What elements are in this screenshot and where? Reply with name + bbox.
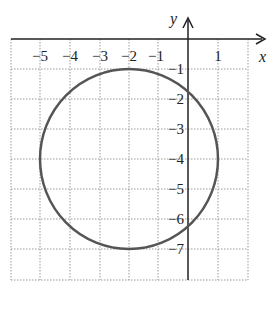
x-tick-labels: −5 −4 −3 −2 −1 1 — [32, 48, 222, 64]
grid — [11, 39, 248, 280]
svg-text:−1: −1 — [148, 48, 164, 64]
svg-text:−4: −4 — [168, 151, 184, 167]
svg-text:−2: −2 — [168, 91, 184, 107]
svg-text:−3: −3 — [168, 121, 184, 137]
x-axis — [11, 34, 265, 44]
y-axis-label: y — [168, 10, 178, 28]
svg-text:1: 1 — [214, 48, 222, 64]
svg-text:−4: −4 — [62, 48, 78, 64]
svg-text:−3: −3 — [92, 48, 108, 64]
svg-text:−7: −7 — [168, 241, 184, 257]
svg-text:−6: −6 — [168, 211, 184, 227]
x-axis-label: x — [258, 48, 266, 65]
coordinate-plane: y x −5 −4 −3 −2 −1 1 −1 −2 −3 −4 −5 −6 −… — [0, 0, 278, 316]
y-tick-labels: −1 −2 −3 −4 −5 −6 −7 — [168, 61, 184, 257]
svg-text:−2: −2 — [121, 48, 137, 64]
svg-text:−5: −5 — [168, 181, 184, 197]
svg-text:−5: −5 — [32, 48, 48, 64]
svg-text:−1: −1 — [168, 61, 184, 77]
y-axis — [183, 18, 193, 280]
